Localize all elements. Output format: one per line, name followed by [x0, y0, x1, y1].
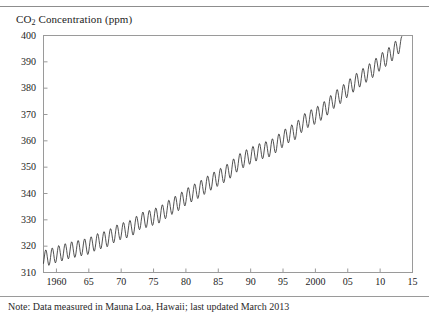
- x-axis-tick-label: 15: [408, 277, 418, 287]
- x-axis-tick-label: 80: [181, 277, 191, 287]
- y-axis-tick-label: 390: [2, 57, 36, 67]
- y-axis-tick-label: 400: [2, 31, 36, 41]
- y-axis-tick-label: 340: [2, 189, 36, 199]
- y-axis-tick-label: 330: [2, 215, 36, 225]
- y-axis-tick-label: 370: [2, 110, 36, 120]
- x-axis-tick-label: 70: [116, 277, 126, 287]
- x-axis-tick-label: 85: [213, 277, 223, 287]
- y-axis-tick-label: 320: [2, 241, 36, 251]
- bottom-divider-rule: [0, 296, 429, 297]
- x-axis-tick-label: 2000: [305, 277, 325, 287]
- y-axis-tick-label: 350: [2, 162, 36, 172]
- x-axis-tick-label: 75: [149, 277, 159, 287]
- x-axis-tick-label: 10: [375, 277, 385, 287]
- x-axis-tick-label: 05: [343, 277, 353, 287]
- x-axis-tick-label: 95: [278, 277, 288, 287]
- y-axis-tick-label: 380: [2, 83, 36, 93]
- x-axis-tick-label: 90: [246, 277, 256, 287]
- figure-caption: Note: Data measured in Mauna Loa, Hawaii…: [8, 301, 428, 312]
- y-axis-tick-label: 310: [2, 268, 36, 278]
- x-axis-tick-label: 65: [84, 277, 94, 287]
- y-axis-tick-label: 360: [2, 136, 36, 146]
- x-axis-tick-label: 1960: [46, 277, 66, 287]
- co2-concentration-line: [44, 37, 402, 266]
